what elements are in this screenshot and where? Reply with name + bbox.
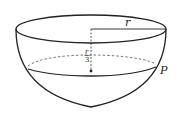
depth-label-denominator: 3 bbox=[85, 56, 89, 64]
point-label: P bbox=[159, 64, 168, 77]
radius-label: r bbox=[125, 16, 131, 29]
hemisphere-diagram: r r 3 P bbox=[0, 0, 180, 113]
water-surface-back bbox=[28, 55, 156, 66]
depth-label-numerator: r bbox=[85, 48, 89, 56]
center-point bbox=[90, 70, 93, 73]
